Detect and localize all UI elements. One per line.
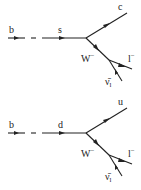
label-u: u [118, 96, 123, 107]
label-d: d [58, 119, 63, 130]
label-neutrino: ν̄l [105, 76, 112, 89]
arrow-icon [14, 131, 19, 135]
label-w: W− [81, 147, 94, 159]
label-b: b [9, 24, 14, 35]
arrow-icon [59, 131, 65, 135]
label-neutrino: ν̄l [105, 171, 112, 184]
arrow-icon [14, 36, 19, 40]
label-w: W− [81, 52, 94, 64]
label-lepton: l− [128, 52, 135, 64]
label-b: b [9, 119, 14, 130]
arrow-icon [59, 36, 65, 40]
label-lepton: l− [128, 147, 135, 159]
arrow-icon [118, 158, 126, 162]
diagram-bottom: b d u W− l− ν̄l [8, 96, 135, 184]
feynman-diagrams: b s c W− l− ν̄l b d u W− l− ν̄l [0, 0, 141, 190]
label-c: c [118, 1, 123, 12]
arrow-icon [118, 63, 126, 67]
label-s: s [58, 24, 62, 35]
diagram-top: b s c W− l− ν̄l [8, 1, 135, 89]
